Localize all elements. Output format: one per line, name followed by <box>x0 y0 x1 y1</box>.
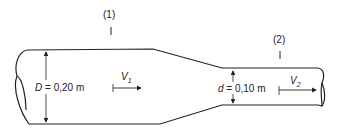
large-pipe-top-wall <box>27 49 318 68</box>
left-break-lobe <box>17 76 26 110</box>
large-diameter-label: D = 0,20 m <box>35 82 84 93</box>
pipe-diagram: (1) (2) D = 0,20 m V1 d = 0,10 m V2 <box>0 0 339 140</box>
velocity-2-label: V2 <box>290 75 301 88</box>
left-break-end <box>15 50 29 124</box>
large-diameter-symbol: D <box>35 82 42 93</box>
section-2-label: (2) <box>273 34 285 45</box>
small-diameter-label: d = 0,10 m <box>218 83 266 94</box>
right-break-end <box>318 68 324 106</box>
section-1-label: (1) <box>103 9 115 20</box>
velocity-1-label: V1 <box>121 71 132 84</box>
small-diameter-value: = 0,10 m <box>226 83 265 94</box>
small-diameter-symbol: d <box>218 83 224 94</box>
large-pipe-bottom-wall <box>29 105 318 124</box>
large-diameter-value: = 0,20 m <box>45 82 84 93</box>
